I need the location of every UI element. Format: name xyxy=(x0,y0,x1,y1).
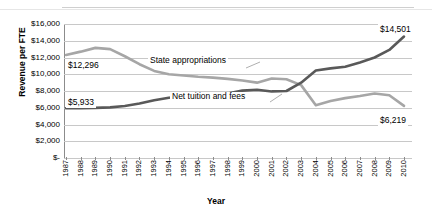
x-tick-label: 2007 xyxy=(356,160,364,177)
label-leader-line xyxy=(246,62,260,68)
x-tick-label: 2000 xyxy=(253,160,261,177)
x-tick-label: 2005 xyxy=(327,160,335,177)
x-tick-label: 1998 xyxy=(224,160,232,177)
start-label-state: $12,296 xyxy=(66,60,101,71)
x-tick-label: 1992 xyxy=(135,160,143,177)
x-tick-label: 1987 xyxy=(62,160,70,177)
series-label-state: State appropriations xyxy=(148,56,228,65)
x-axis-title: Year xyxy=(0,196,432,206)
x-tick-label: 2003 xyxy=(297,160,305,177)
crop-artifact-line-top xyxy=(62,7,414,8)
x-tick-label: 2008 xyxy=(371,160,379,177)
revenue-per-fte-line-chart: Revenue per FTE $16,000$14,000$12,000$10… xyxy=(0,0,432,213)
x-tick-label: 1999 xyxy=(238,160,246,177)
y-tick-label: $14,000 xyxy=(14,37,60,45)
x-tick-label: 1993 xyxy=(150,160,158,177)
y-tick-label: $8,000 xyxy=(14,87,60,95)
x-tick-label: 1994 xyxy=(165,160,173,177)
y-tick-label: $10,000 xyxy=(14,70,60,78)
x-tick-label: 1990 xyxy=(106,160,114,177)
x-tick-label: 2002 xyxy=(282,160,290,177)
crop-artifact-line-top-2 xyxy=(0,9,432,10)
start-label-tuition: $5,933 xyxy=(66,97,96,108)
y-tick-label: $- xyxy=(14,154,60,162)
end-label-tuition: $14,501 xyxy=(378,24,413,35)
y-axis-tick-labels: $16,000$14,000$12,000$10,000$8,000$6,000… xyxy=(12,0,60,213)
y-tick-label: $4,000 xyxy=(14,121,60,129)
x-tick-label: 2009 xyxy=(385,160,393,177)
y-tick-label: $12,000 xyxy=(14,54,60,62)
x-tick-label: 1997 xyxy=(209,160,217,177)
x-tick-label: 1989 xyxy=(91,160,99,177)
end-label-state: $6,219 xyxy=(378,115,408,126)
series-label-tuition: Net tuition and fees xyxy=(170,92,247,101)
x-tick-label: 2006 xyxy=(341,160,349,177)
x-tick-label: 2001 xyxy=(268,160,276,177)
y-tick-label: $6,000 xyxy=(14,104,60,112)
x-tick-label: 2004 xyxy=(312,160,320,177)
label-leader-line xyxy=(270,94,282,102)
x-tick-label: 1995 xyxy=(180,160,188,177)
y-tick-label: $2,000 xyxy=(14,137,60,145)
x-tick-label: 1988 xyxy=(77,160,85,177)
x-tick-label: 1996 xyxy=(194,160,202,177)
y-tick-label: $16,000 xyxy=(14,20,60,28)
x-tick-label: 2010 xyxy=(400,160,408,177)
x-tick-label: 1991 xyxy=(121,160,129,177)
x-axis-tick-labels: 1987198819891990199119921993199419951996… xyxy=(64,160,412,200)
